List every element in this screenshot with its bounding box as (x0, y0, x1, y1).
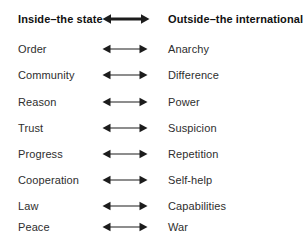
row-right-label: Repetition (168, 144, 300, 164)
double-headed-arrow-icon (102, 39, 150, 59)
row-left-label: Reason (18, 92, 102, 112)
double-headed-arrow-icon (102, 65, 150, 85)
row-right-label: War (168, 217, 300, 237)
row-left-label: Community (18, 65, 102, 85)
row-right-label: Suspicion (168, 118, 300, 138)
row-arrow (102, 92, 150, 112)
row-arrow (102, 39, 150, 59)
table-row: Reason Power (0, 92, 303, 112)
header-label-outside: Outside–the international (168, 9, 300, 29)
row-arrow (102, 196, 150, 216)
row-left-label: Progress (18, 144, 102, 164)
header-label-inside: Inside–the state (18, 9, 102, 29)
row-left-label: Law (18, 196, 102, 216)
row-right-label: Power (168, 92, 300, 112)
row-arrow (102, 65, 150, 85)
double-headed-arrow-icon (102, 196, 150, 216)
double-headed-arrow-icon (102, 170, 150, 190)
row-left-label: Peace (18, 217, 102, 237)
inside-outside-comparison-diagram: Inside–the state Outside–the internation… (0, 0, 303, 241)
double-headed-arrow-icon (102, 144, 150, 164)
table-row: Progress Repetition (0, 144, 303, 164)
table-row: Law Capabilities (0, 196, 303, 216)
row-left-label: Trust (18, 118, 102, 138)
table-row: Cooperation Self-help (0, 170, 303, 190)
row-arrow (102, 217, 150, 237)
row-arrow (102, 144, 150, 164)
table-row: Peace War (0, 217, 303, 237)
table-row: Community Difference (0, 65, 303, 85)
double-headed-arrow-icon (102, 118, 150, 138)
diagram-header-row: Inside–the state Outside–the internation… (0, 9, 303, 29)
table-row: Order Anarchy (0, 39, 303, 59)
double-headed-arrow-icon (102, 92, 150, 112)
table-row: Trust Suspicion (0, 118, 303, 138)
row-arrow (102, 170, 150, 190)
double-headed-arrow-bold-icon (102, 9, 150, 29)
row-right-label: Self-help (168, 170, 300, 190)
header-arrow (102, 9, 150, 29)
row-left-label: Cooperation (18, 170, 102, 190)
row-right-label: Anarchy (168, 39, 300, 59)
row-arrow (102, 118, 150, 138)
row-right-label: Capabilities (168, 196, 300, 216)
row-right-label: Difference (168, 65, 300, 85)
row-left-label: Order (18, 39, 102, 59)
double-headed-arrow-icon (102, 217, 150, 237)
